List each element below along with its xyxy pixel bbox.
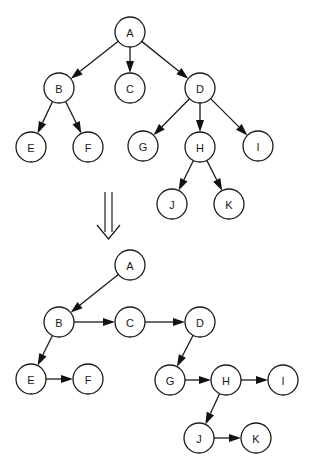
node-label: E: [27, 142, 34, 154]
arrowhead-G-H: [199, 376, 211, 384]
node-label: G: [166, 375, 175, 387]
transform-arrow: [97, 192, 120, 239]
node-j: J: [157, 189, 187, 219]
arrowhead-B-F: [73, 121, 82, 134]
arrowhead-C-D: [173, 318, 185, 326]
double-down-arrow-icon: [97, 225, 120, 239]
arrowhead-D-H: [196, 120, 204, 132]
node-label: H: [222, 375, 230, 387]
node-label: C: [126, 317, 134, 329]
tree-transformation-diagram: ABCDEFGHIJK ABCDEFGHIJK: [0, 0, 316, 464]
arrowhead-A-B: [71, 302, 83, 313]
original-tree: ABCDEFGHIJK: [16, 17, 273, 219]
node-d: D: [185, 307, 215, 337]
node-label: B: [55, 317, 62, 329]
node-label: I: [281, 375, 284, 387]
edge-D-I: [211, 99, 239, 127]
node-g: G: [128, 131, 158, 161]
node-label: F: [85, 374, 92, 386]
node-j: J: [184, 423, 214, 453]
node-b: B: [44, 73, 74, 103]
node-label: B: [55, 83, 62, 95]
node-i: I: [268, 365, 298, 395]
node-k: K: [241, 423, 271, 453]
arrowhead-H-J: [205, 412, 214, 425]
node-label: G: [139, 141, 148, 153]
node-label: C: [126, 83, 134, 95]
node-e: E: [16, 132, 46, 162]
node-label: E: [27, 374, 34, 386]
node-label: H: [196, 142, 204, 154]
node-label: D: [196, 83, 204, 95]
node-label: A: [126, 260, 134, 272]
node-label: F: [85, 142, 92, 154]
node-label: A: [126, 27, 134, 39]
arrowhead-H-K: [213, 178, 222, 191]
binary-tree: ABCDEFGHIJK: [16, 250, 298, 453]
node-label: K: [252, 433, 260, 445]
arrowhead-E-F: [61, 375, 73, 383]
node-d: D: [185, 73, 215, 103]
node-label: J: [169, 199, 175, 211]
node-f: F: [73, 364, 103, 394]
node-i: I: [243, 131, 273, 161]
node-k: K: [214, 189, 244, 219]
node-f: F: [73, 132, 103, 162]
node-b: B: [44, 307, 74, 337]
node-h: H: [211, 365, 241, 395]
edge-H-J: [184, 160, 193, 179]
arrowhead-A-D: [176, 68, 188, 79]
arrowhead-B-E: [38, 353, 47, 366]
node-e: E: [16, 364, 46, 394]
node-h: H: [185, 132, 215, 162]
arrowhead-A-B: [71, 68, 83, 79]
edge-H-J: [210, 394, 219, 414]
node-label: I: [256, 141, 259, 153]
arrowhead-J-K: [229, 434, 241, 442]
node-label: J: [196, 433, 202, 445]
edge-D-G: [162, 99, 190, 127]
edge-A-B: [80, 41, 118, 71]
arrowhead-A-C: [126, 61, 134, 73]
edge-B-F: [66, 101, 76, 122]
node-g: G: [155, 365, 185, 395]
edge-H-K: [207, 160, 217, 180]
arrowhead-H-I: [256, 376, 268, 384]
edge-B-E: [43, 335, 52, 354]
arrowhead-H-J: [179, 178, 188, 191]
node-a: A: [115, 250, 145, 280]
node-a: A: [115, 17, 145, 47]
edge-A-B: [80, 274, 118, 305]
arrowhead-B-C: [103, 318, 115, 326]
edge-B-E: [43, 102, 53, 123]
edge-D-G: [182, 335, 193, 356]
node-label: K: [225, 199, 233, 211]
arrowhead-B-E: [37, 121, 46, 134]
node-c: C: [115, 73, 145, 103]
arrowhead-D-G: [177, 354, 186, 366]
node-label: D: [196, 317, 204, 329]
edge-A-D: [142, 41, 179, 71]
node-c: C: [115, 307, 145, 337]
